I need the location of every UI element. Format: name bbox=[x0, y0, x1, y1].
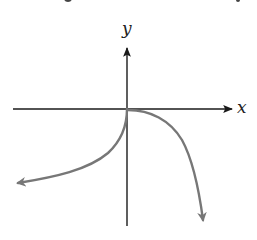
curve-right-branch bbox=[128, 110, 203, 220]
curve-left-branch bbox=[18, 109, 127, 183]
x-axis-label: x bbox=[237, 99, 247, 116]
y-axis-label: y bbox=[122, 20, 132, 37]
